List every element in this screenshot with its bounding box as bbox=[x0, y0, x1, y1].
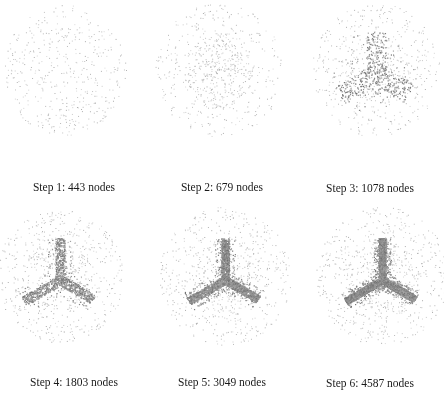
node-scatter-step-5 bbox=[148, 198, 296, 395]
panel-step-2: Step 2: 679 nodes bbox=[148, 0, 296, 197]
caption-step-1: Step 1: 443 nodes bbox=[0, 181, 148, 193]
caption-step-2: Step 2: 679 nodes bbox=[148, 181, 296, 193]
node-scatter-step-4 bbox=[0, 198, 148, 395]
panel-step-6: Step 6: 4587 nodes bbox=[296, 198, 444, 395]
node-scatter-step-6 bbox=[296, 198, 444, 395]
caption-step-5: Step 5: 3049 nodes bbox=[148, 376, 296, 388]
panel-step-3: Step 3: 1078 nodes bbox=[296, 0, 444, 197]
caption-step-4: Step 4: 1803 nodes bbox=[0, 376, 148, 388]
caption-step-3: Step 3: 1078 nodes bbox=[296, 182, 444, 194]
panel-step-1: Step 1: 443 nodes bbox=[0, 0, 148, 197]
panel-step-5: Step 5: 3049 nodes bbox=[148, 198, 296, 395]
node-scatter-step-1 bbox=[0, 0, 148, 197]
node-scatter-step-3 bbox=[296, 0, 444, 197]
caption-step-6: Step 6: 4587 nodes bbox=[296, 377, 444, 389]
panel-step-4: Step 4: 1803 nodes bbox=[0, 198, 148, 395]
node-scatter-step-2 bbox=[148, 0, 296, 197]
